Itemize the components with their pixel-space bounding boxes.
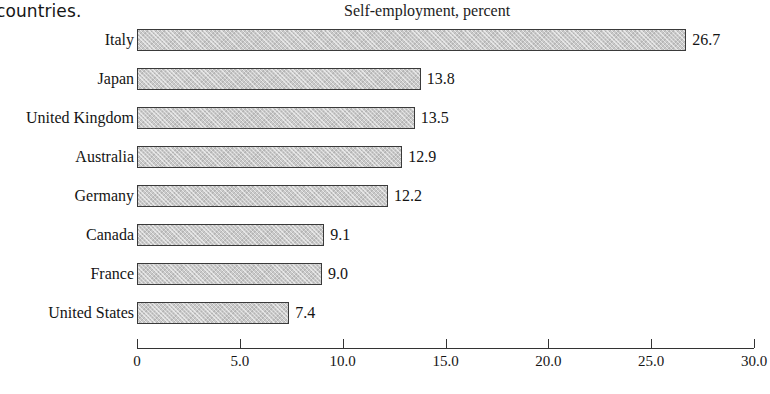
bar	[137, 263, 322, 285]
bar-value-label: 9.0	[328, 261, 348, 287]
bar-row: Canada9.1	[0, 222, 770, 248]
x-axis-tick-label: 10.0	[330, 352, 356, 370]
x-axis-tick	[446, 339, 447, 348]
bar-row: Italy26.7	[0, 27, 770, 53]
x-axis-tick-label: 15.0	[432, 352, 458, 370]
x-axis-tick	[137, 339, 138, 348]
bar-row: France9.0	[0, 261, 770, 287]
bar-value-label: 12.9	[408, 144, 436, 170]
category-label: Germany	[74, 183, 134, 209]
category-label: Canada	[86, 222, 134, 248]
bar-value-label: 12.2	[394, 183, 422, 209]
x-axis-tick-label: 0	[133, 352, 141, 370]
bar-row: United Kingdom13.5	[0, 105, 770, 131]
x-axis-tick-label: 25.0	[638, 352, 664, 370]
bar-row: Germany12.2	[0, 183, 770, 209]
bar	[137, 146, 402, 168]
bar-value-label: 9.1	[330, 222, 350, 248]
category-label: Italy	[105, 27, 134, 53]
bar	[137, 185, 388, 207]
x-axis-tick	[651, 339, 652, 348]
category-label: Australia	[75, 144, 134, 170]
chart-title: Self-employment, percent	[344, 1, 510, 21]
footer-text-fragment	[6, 386, 706, 394]
category-label: United Kingdom	[26, 105, 134, 131]
category-label: United States	[48, 300, 134, 326]
category-label: Japan	[98, 66, 134, 92]
bar-value-label: 13.8	[427, 66, 455, 92]
bar-row: Australia12.9	[0, 144, 770, 170]
x-axis-tick-label: 20.0	[535, 352, 561, 370]
x-axis-tick-label: 5.0	[230, 352, 249, 370]
x-axis-tick	[754, 339, 755, 348]
x-axis-tick	[548, 339, 549, 348]
x-axis-tick	[343, 339, 344, 348]
chart-page: countries. Self-employment, percent Ital…	[0, 0, 770, 394]
bar	[137, 302, 289, 324]
bar-value-label: 7.4	[295, 300, 315, 326]
category-label: France	[90, 261, 134, 287]
x-axis-tick-label: 30.0	[741, 352, 767, 370]
bar	[137, 68, 421, 90]
bar	[137, 224, 324, 246]
bar	[137, 29, 686, 51]
bar-value-label: 26.7	[692, 27, 720, 53]
plot-area: Italy26.7Japan13.8United Kingdom13.5Aust…	[0, 25, 770, 350]
bar-row: United States7.4	[0, 300, 770, 326]
bar-value-label: 13.5	[421, 105, 449, 131]
bar-row: Japan13.8	[0, 66, 770, 92]
caption-text-fragment: countries.	[0, 0, 81, 22]
x-axis-tick	[240, 339, 241, 348]
bar	[137, 107, 415, 129]
x-axis-line	[137, 348, 754, 349]
